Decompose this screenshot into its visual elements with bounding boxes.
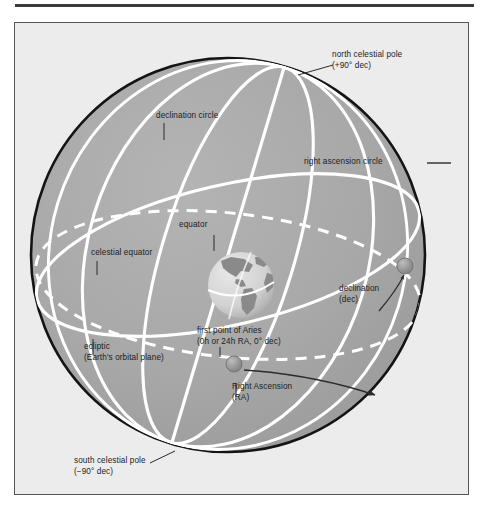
celestial-sphere-drawing xyxy=(15,23,468,494)
label-north-celestial-pole: north celestial pole (+90° dec) xyxy=(332,50,402,71)
label-line: (0h or 24h RA, 0° dec) xyxy=(197,337,281,348)
top-horizontal-rule xyxy=(15,4,474,7)
label-line: north celestial pole xyxy=(332,50,402,61)
label-line: first point of Aries xyxy=(197,326,281,337)
label-line: (+90° dec) xyxy=(332,61,402,72)
label-line: Right Ascension xyxy=(232,382,292,393)
declination-point-marker xyxy=(397,258,413,274)
leader-north-celestial-pole xyxy=(298,65,333,75)
label-equator: equator xyxy=(179,220,207,231)
label-line: (Earth's orbital plane) xyxy=(84,353,164,364)
label-line: (RA) xyxy=(232,393,292,404)
label-line: declination circle xyxy=(156,111,218,122)
label-right-ascension-circle: right ascension circle xyxy=(304,157,383,168)
label-line: equator xyxy=(179,220,207,231)
label-south-celestial-pole: south celestial pole (−90° dec) xyxy=(74,456,146,477)
label-line: south celestial pole xyxy=(74,456,146,467)
label-ecliptic: ecliptic (Earth's orbital plane) xyxy=(84,342,164,363)
label-first-point-of-aries: first point of Aries (0h or 24h RA, 0° d… xyxy=(197,326,281,347)
label-declination-circle: declination circle xyxy=(156,111,218,122)
first-point-of-aries-marker xyxy=(226,356,242,372)
label-celestial-equator: celestial equator xyxy=(91,248,152,259)
label-right-ascension: Right Ascension (RA) xyxy=(232,382,292,403)
label-declination: declination (dec) xyxy=(339,284,379,305)
celestial-sphere-figure-panel: north celestial pole (+90° dec) declinat… xyxy=(14,22,469,495)
label-line: ecliptic xyxy=(84,342,164,353)
label-line: (−90° dec) xyxy=(74,467,146,478)
label-line: declination xyxy=(339,284,379,295)
label-line: (dec) xyxy=(339,295,379,306)
label-line: celestial equator xyxy=(91,248,152,259)
figure-page: north celestial pole (+90° dec) declinat… xyxy=(0,0,489,519)
label-line: right ascension circle xyxy=(304,157,383,168)
leader-south-celestial-pole xyxy=(150,451,175,463)
